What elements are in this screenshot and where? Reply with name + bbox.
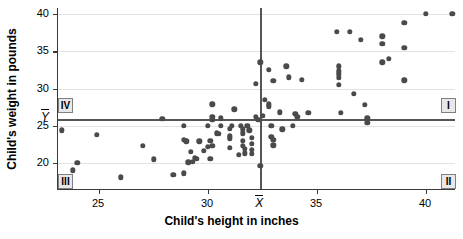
data-point — [197, 139, 202, 144]
quadrant-label-iv: IV — [58, 98, 73, 113]
data-point — [249, 141, 254, 146]
data-point — [401, 20, 406, 25]
x-axis-tick-label: 35 — [296, 197, 336, 209]
data-point — [249, 135, 254, 140]
x-axis-tick-label: 25 — [78, 197, 118, 209]
data-point — [351, 91, 356, 96]
data-point — [299, 77, 304, 82]
data-point — [277, 110, 282, 115]
data-point — [210, 143, 215, 148]
x-axis-tick — [426, 189, 427, 194]
quadrant-label-i: I — [441, 98, 456, 113]
y-axis-title: Child's weight in pounds — [5, 9, 19, 189]
data-point — [260, 113, 265, 118]
data-point — [258, 60, 263, 65]
data-point — [194, 156, 199, 161]
quadrant-label-iii: III — [58, 174, 73, 189]
data-point — [269, 123, 274, 128]
data-point — [205, 123, 210, 128]
data-point — [336, 82, 341, 87]
data-point — [380, 60, 385, 65]
data-point — [160, 116, 165, 121]
x-axis-tick — [99, 189, 100, 194]
data-point — [336, 75, 341, 80]
data-point — [229, 123, 234, 128]
data-point — [118, 174, 123, 179]
x-axis-tick — [317, 189, 318, 194]
data-point — [218, 123, 223, 128]
x-axis-title: Child's height in inches — [0, 214, 463, 228]
mean-y-symbol: Y — [41, 110, 49, 124]
y-axis-tick — [53, 51, 58, 52]
data-point — [74, 160, 79, 165]
data-point — [334, 29, 339, 34]
data-point — [249, 151, 254, 156]
data-point — [183, 139, 188, 144]
data-point — [258, 163, 263, 168]
y-gridline — [58, 126, 455, 127]
y-gridline — [58, 89, 455, 90]
x-axis-tick-label: 30 — [187, 197, 227, 209]
data-point — [70, 168, 75, 173]
data-point — [140, 143, 145, 148]
data-point — [338, 110, 343, 115]
data-point — [271, 142, 276, 147]
data-point — [170, 172, 175, 177]
data-point — [231, 107, 236, 112]
data-point — [210, 117, 215, 122]
data-point — [347, 29, 352, 34]
data-point — [449, 11, 454, 16]
data-point — [253, 81, 258, 86]
data-point — [181, 171, 186, 176]
mean-x-symbol: X — [255, 196, 263, 210]
data-point — [380, 34, 385, 39]
data-point — [227, 136, 232, 141]
y-axis-tick — [53, 89, 58, 90]
y-axis-tick-label: 20 — [23, 156, 49, 168]
data-point — [247, 128, 252, 133]
data-point — [207, 156, 212, 161]
data-point — [59, 128, 64, 133]
scatter-plot-figure: Child's height in inches Child's weight … — [0, 0, 463, 239]
data-point — [240, 130, 245, 135]
data-point — [290, 123, 295, 128]
x-axis-tick — [208, 189, 209, 194]
plot-area — [57, 8, 455, 190]
data-point — [362, 102, 367, 107]
data-point — [286, 75, 291, 80]
data-point — [236, 152, 241, 157]
y-gridline — [58, 51, 455, 52]
quadrant-label-ii: II — [441, 174, 456, 189]
data-point — [151, 157, 156, 162]
data-point — [210, 101, 215, 106]
y-axis-tick — [53, 126, 58, 127]
y-axis-tick — [53, 163, 58, 164]
y-axis-tick-label: 40 — [23, 7, 49, 19]
data-point — [284, 63, 289, 68]
data-point — [380, 41, 385, 46]
data-point — [242, 151, 247, 156]
data-point — [364, 120, 369, 125]
data-point — [266, 67, 271, 72]
y-axis-tick-label: 35 — [23, 44, 49, 56]
data-point — [188, 149, 193, 154]
data-point — [94, 132, 99, 137]
y-axis-tick — [53, 14, 58, 15]
data-point — [306, 110, 311, 115]
data-point — [181, 123, 186, 128]
data-point — [227, 145, 232, 150]
data-point — [279, 127, 284, 132]
data-point — [358, 37, 363, 42]
y-gridline — [58, 14, 455, 15]
y-axis-tick-label: 30 — [23, 82, 49, 94]
data-point — [201, 148, 206, 153]
data-point — [401, 78, 406, 83]
data-point — [216, 131, 221, 136]
data-point — [401, 45, 406, 50]
data-point — [386, 56, 391, 61]
x-axis-tick-label: 40 — [405, 197, 445, 209]
data-point — [423, 11, 428, 16]
data-point — [271, 78, 276, 83]
y-gridline — [58, 163, 455, 164]
